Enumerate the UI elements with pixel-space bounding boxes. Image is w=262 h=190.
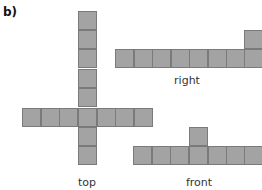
grid-cell [97, 108, 116, 127]
grid-cell [189, 146, 208, 165]
grid-cell [152, 146, 171, 165]
grid-cell [59, 108, 78, 127]
grid-cell [78, 11, 97, 30]
part-label: b) [3, 5, 17, 19]
grid-cell [244, 49, 262, 68]
grid-cell [170, 146, 189, 165]
grid-cell [115, 108, 134, 127]
view-label-right: right [174, 74, 200, 87]
grid-cell [78, 88, 97, 107]
grid-cell [152, 49, 171, 68]
grid-cell [208, 49, 227, 68]
grid-cell [78, 30, 97, 49]
grid-cell [189, 49, 208, 68]
grid-cell [115, 49, 134, 68]
grid-cell [226, 49, 245, 68]
grid-cell [226, 146, 245, 165]
grid-cell [208, 146, 227, 165]
grid-cell [78, 108, 97, 127]
grid-cell [41, 108, 60, 127]
grid-cell [244, 146, 262, 165]
grid-cell [22, 108, 41, 127]
grid-cell [133, 146, 152, 165]
grid-cell [189, 127, 208, 146]
grid-cell [78, 146, 97, 165]
view-label-front: front [186, 176, 212, 189]
grid-cell [78, 49, 97, 68]
grid-cell [134, 49, 153, 68]
grid-cell [134, 108, 153, 127]
grid-cell [78, 69, 97, 88]
grid-cell [171, 49, 190, 68]
grid-cell [78, 127, 97, 146]
grid-cell [244, 30, 262, 49]
view-label-top: top [78, 176, 96, 189]
